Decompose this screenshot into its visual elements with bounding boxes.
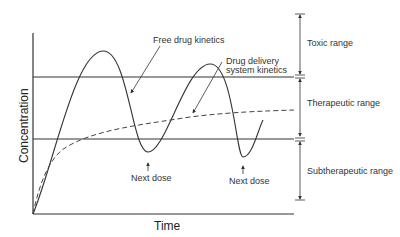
x-axis-label: Time (154, 219, 180, 233)
dds-curve (33, 110, 294, 214)
subtherapeutic-range-label: Subtherapeutic range (307, 166, 393, 176)
y-axis-label: Concentration (17, 88, 31, 163)
free-drug-pointer (131, 46, 160, 93)
free-drug-label: Free drug kinetics (153, 35, 225, 45)
next-dose-2-label: Next dose (229, 176, 270, 186)
toxic-range-label: Toxic range (307, 38, 353, 48)
dds-pointer (193, 62, 222, 113)
next-dose-1-label: Next dose (131, 173, 172, 183)
therapeutic-range-label: Therapeutic range (307, 98, 380, 108)
free-drug-curve (33, 51, 263, 214)
dds-label-line2: system kinetics (226, 65, 287, 75)
